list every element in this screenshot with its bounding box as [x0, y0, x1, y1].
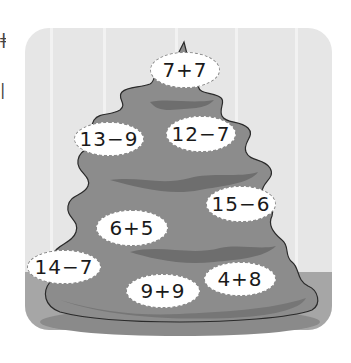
math-expression-bubble: 13−9 — [74, 122, 144, 156]
math-expression-bubble: 6+5 — [96, 210, 168, 246]
math-expression-bubble: 12−7 — [166, 116, 236, 152]
math-expression-bubble: 9+9 — [126, 274, 200, 308]
math-expression-bubble: 4+8 — [204, 262, 276, 296]
math-expression-bubble: 7+7 — [150, 52, 220, 88]
math-expression-bubble: 14−7 — [27, 250, 101, 284]
math-expression-bubble: 15−6 — [206, 186, 276, 222]
